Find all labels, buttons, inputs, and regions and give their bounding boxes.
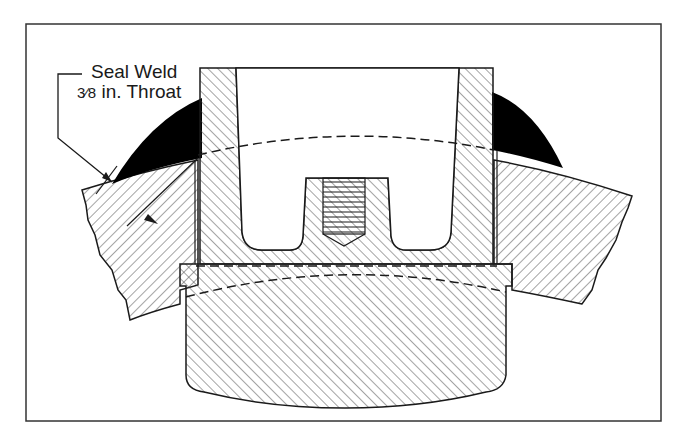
seal-weld-right (492, 92, 563, 168)
throat-text: in. Throat (96, 81, 181, 102)
threaded-hole (323, 178, 365, 234)
throat-fraction: 3⁄8 (77, 84, 96, 101)
seal-weld-label: Seal Weld (91, 62, 177, 82)
curved-shell-plate-left (82, 160, 198, 320)
bottom-flange-pad (180, 264, 512, 408)
seal-weld-title: Seal Weld (91, 61, 177, 82)
curved-shell-plate-right (494, 160, 632, 304)
throat-size-label: 3⁄8 in. Throat (77, 82, 181, 103)
leader-arrowhead (102, 172, 112, 182)
